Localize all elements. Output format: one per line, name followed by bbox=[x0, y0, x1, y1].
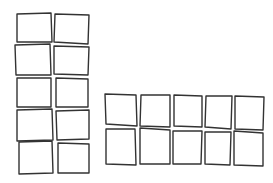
left-grid-box-1 bbox=[17, 13, 52, 42]
left-grid-box-7 bbox=[17, 109, 53, 141]
left-grid-box-3 bbox=[15, 44, 51, 75]
right-grid-box-4 bbox=[205, 96, 232, 129]
right-grid-box-3 bbox=[174, 95, 202, 127]
left-grid bbox=[15, 13, 89, 174]
right-grid-box-5 bbox=[235, 96, 264, 130]
left-grid-box-9 bbox=[19, 141, 53, 174]
right-grid-box-10 bbox=[234, 131, 263, 166]
left-grid-box-4 bbox=[54, 46, 89, 75]
left-grid-box-6 bbox=[56, 78, 88, 107]
right-grid bbox=[105, 94, 264, 166]
left-grid-box-5 bbox=[17, 78, 51, 107]
left-grid-box-8 bbox=[56, 110, 89, 140]
right-grid-box-2 bbox=[140, 95, 170, 127]
right-grid-box-8 bbox=[173, 131, 202, 164]
right-grid-box-9 bbox=[205, 132, 231, 165]
right-grid-box-6 bbox=[106, 129, 136, 165]
left-grid-box-2 bbox=[54, 14, 89, 44]
left-grid-box-10 bbox=[58, 143, 89, 173]
right-grid-box-7 bbox=[140, 128, 170, 164]
sketch-canvas bbox=[0, 0, 273, 183]
right-grid-box-1 bbox=[105, 94, 137, 126]
